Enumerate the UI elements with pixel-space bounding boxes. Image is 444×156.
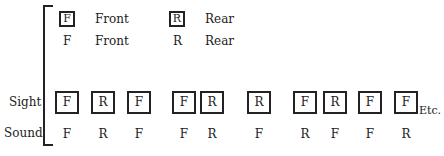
sound-symbol: R bbox=[394, 127, 418, 141]
legend-sound-front-label: Front bbox=[95, 34, 129, 48]
legend-sight-front-box: F bbox=[59, 11, 75, 27]
legend-sight-front-label: Front bbox=[95, 12, 129, 26]
sight-box: F bbox=[172, 91, 196, 114]
sight-box: R bbox=[323, 91, 347, 114]
sight-box: F bbox=[394, 91, 418, 114]
sight-box: F bbox=[293, 91, 317, 114]
sound-symbol: R bbox=[293, 127, 317, 141]
bracket-top-tick bbox=[43, 5, 53, 7]
sight-box: F bbox=[127, 91, 151, 114]
sound-symbol: F bbox=[323, 127, 347, 141]
sight-box: F bbox=[55, 91, 79, 114]
bracket-bottom-tick bbox=[43, 144, 53, 146]
sound-symbol: R bbox=[91, 127, 115, 141]
sight-box: R bbox=[247, 91, 271, 114]
sight-box: F bbox=[358, 91, 382, 114]
sound-symbol: F bbox=[358, 127, 382, 141]
sight-box: R bbox=[200, 91, 224, 114]
sound-symbol: F bbox=[127, 127, 151, 141]
sound-symbol: F bbox=[55, 127, 79, 141]
etc-label: Etc. bbox=[419, 104, 441, 117]
bracket-vertical-line bbox=[43, 5, 45, 146]
legend-sound-front-symbol: F bbox=[63, 34, 71, 48]
sight-box: R bbox=[91, 91, 115, 114]
legend-sight-rear-label: Rear bbox=[205, 12, 234, 26]
sound-row-label: Sound bbox=[4, 126, 43, 140]
sound-symbol: F bbox=[247, 127, 271, 141]
sound-symbol: R bbox=[200, 127, 224, 141]
legend-sound-rear-symbol: R bbox=[173, 34, 182, 48]
sight-row-label: Sight bbox=[9, 95, 41, 109]
legend-sight-rear-box: R bbox=[169, 11, 185, 27]
legend-sound-rear-label: Rear bbox=[205, 34, 234, 48]
sound-symbol: F bbox=[172, 127, 196, 141]
